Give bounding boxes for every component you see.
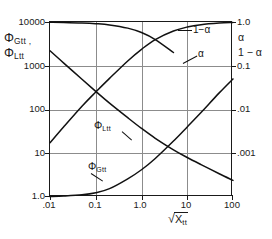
y-left-tick-10000: 10000 [0, 17, 45, 27]
phi-ltt-label-subscript: Ltt [102, 125, 111, 132]
x-axis-title: Xtt [168, 213, 187, 227]
curve-phi-gtt [50, 79, 233, 197]
sqrt-radical-icon: Xtt [168, 213, 187, 227]
plot-area: ΦLtt ΦGtt 1−α α [49, 21, 232, 196]
phi-gtt-label-subscript: Gtt [96, 166, 106, 173]
one-minus-alpha-axis-label: 1 − α [238, 45, 262, 60]
chart-figure: 10000 1000 100 10 1.0 1.0 0.1 .01 .001 .… [0, 0, 272, 239]
x-tick-0p01: .01 [29, 200, 69, 210]
x-tick-1: 1.0 [120, 200, 160, 210]
phi-glyph: Φ [4, 31, 14, 45]
x-tick-0p1: 0.1 [75, 200, 115, 210]
alpha-axis-label: α [238, 30, 262, 45]
y-right-tick-1: 1.0 [237, 17, 250, 27]
y-left-tick-100: 100 [0, 104, 45, 114]
curve-phi-ltt [50, 51, 233, 181]
y-axis-left-title-line1: ΦGtt , [4, 32, 31, 47]
curve-alpha [50, 22, 173, 52]
phi-ltt-subscript: Ltt [14, 51, 24, 61]
y-axis-left-title-line2: ΦLtt [4, 47, 31, 62]
x-tick-100: 100 [212, 200, 252, 210]
alpha-label: α [198, 48, 204, 59]
y-left-tick-1000: 1000 [0, 61, 45, 71]
y-right-tick-0p001: .001 [237, 148, 256, 158]
phi-gtt-subscript: Gtt , [14, 36, 31, 46]
y-right-tick-0p1: 0.1 [237, 61, 250, 71]
phi-gtt-label: ΦGtt [88, 161, 107, 173]
y-axis-right-title: α 1 − α [238, 30, 262, 60]
one-minus-alpha-leader [178, 30, 192, 31]
y-left-tick-10: 10 [0, 148, 45, 158]
x-axis-subscript: tt [182, 218, 187, 227]
curves-layer [50, 22, 233, 197]
radical-bar [174, 212, 188, 213]
y-right-tick-0p01: .01 [237, 104, 250, 114]
phi-ltt-label: ΦLtt [94, 120, 111, 132]
x-tick-10: 10 [166, 200, 206, 210]
curve-one-minus-alpha [50, 22, 233, 142]
phi-glyph-2: Φ [4, 46, 14, 60]
one-minus-alpha-label: 1−α [193, 24, 210, 35]
y-axis-left-title: ΦGtt , ΦLtt [4, 32, 31, 61]
